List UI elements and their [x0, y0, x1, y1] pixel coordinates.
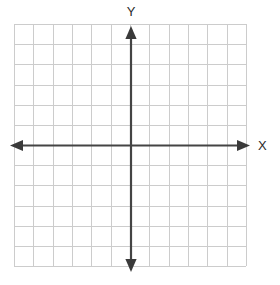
coordinate-plane-svg: X Y — [0, 0, 280, 285]
y-axis-label: Y — [127, 4, 136, 19]
x-axis-label: X — [258, 138, 267, 153]
coordinate-plane-figure: X Y — [0, 0, 280, 285]
